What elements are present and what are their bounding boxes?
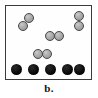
adatom-circle bbox=[18, 21, 28, 31]
adatom-circle bbox=[54, 31, 64, 41]
substrate-circle bbox=[62, 64, 73, 75]
figure-panel bbox=[5, 5, 92, 80]
substrate-circle bbox=[74, 64, 85, 75]
substrate-circle bbox=[45, 64, 56, 75]
adatom-circle bbox=[74, 11, 84, 21]
figure-container: b. bbox=[0, 0, 98, 98]
figure-caption: b. bbox=[0, 81, 98, 95]
adatom-circle bbox=[74, 21, 84, 31]
adatom-circle bbox=[42, 49, 52, 59]
substrate-circle bbox=[11, 64, 22, 75]
substrate-circle bbox=[28, 64, 39, 75]
